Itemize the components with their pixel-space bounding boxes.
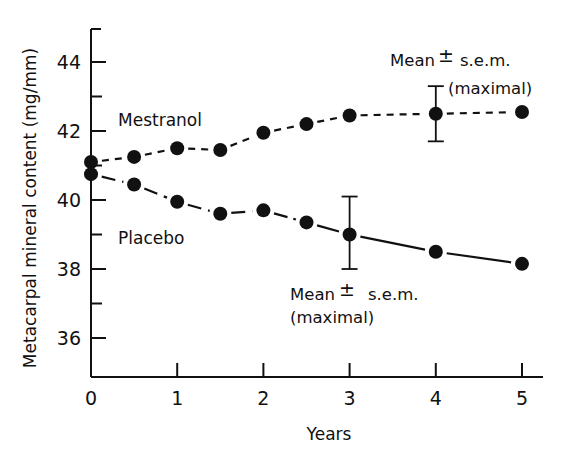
series-line-segment xyxy=(231,211,252,213)
y-tick-label: 42 xyxy=(57,120,81,142)
y-tick-label: 44 xyxy=(57,51,81,73)
series-line-segment xyxy=(317,225,339,231)
data-point-marker xyxy=(84,155,98,169)
data-point-marker xyxy=(84,167,98,181)
line-chart: 3638404244012345 Metacarpal mineral cont… xyxy=(0,0,564,461)
x-tick-label: 5 xyxy=(516,387,528,409)
series-line-segment xyxy=(102,158,123,161)
annotation-mean: Mean xyxy=(290,285,335,304)
series-line-segment xyxy=(188,149,209,150)
x-axis-title: Years xyxy=(306,424,352,444)
data-point-marker xyxy=(429,245,443,259)
x-tick-label: 1 xyxy=(171,387,183,409)
data-point-marker xyxy=(515,105,529,119)
series-line-segment xyxy=(231,137,254,146)
annotation-sem-placebo: Mean ± s.e.m. (maximal) xyxy=(290,278,419,327)
series-line-segment xyxy=(274,213,296,219)
annotation-sem: s.e.m. xyxy=(368,285,419,304)
series-line-segment xyxy=(102,177,124,182)
annotation-maximal: (maximal) xyxy=(290,308,374,327)
series-line-segment xyxy=(361,114,425,115)
annotation-sem-mestranol: Mean ± s.e.m. (maximal) xyxy=(390,44,532,98)
data-point-marker xyxy=(170,141,184,155)
series-line-segment xyxy=(188,205,210,211)
series-line-segment xyxy=(274,126,296,130)
series-line-segment xyxy=(145,150,167,154)
data-point-marker xyxy=(300,117,314,131)
series-label-mestranol: Mestranol xyxy=(118,110,202,130)
data-point-marker xyxy=(343,108,357,122)
data-point-marker xyxy=(213,207,227,221)
data-point-marker xyxy=(213,143,227,157)
annotation-plus-minus: ± xyxy=(438,44,454,66)
series-line-segment xyxy=(447,253,511,262)
y-axis-title: Metacarpal mineral content (mg/mm) xyxy=(20,48,40,368)
annotation-maximal: (maximal) xyxy=(448,79,532,98)
data-point-marker xyxy=(300,215,314,229)
y-tick-label: 40 xyxy=(57,189,81,211)
y-tick-label: 36 xyxy=(57,327,81,349)
data-point-marker xyxy=(515,257,529,271)
annotation-mean: Mean xyxy=(390,51,435,70)
data-point-marker xyxy=(127,177,141,191)
series-line-segment xyxy=(360,237,425,250)
annotation-sem: s.e.m. xyxy=(460,51,511,70)
annotation-plus-minus: ± xyxy=(339,278,355,300)
series-label-placebo: Placebo xyxy=(118,228,184,248)
data-point-marker xyxy=(343,228,357,242)
series-line-segment xyxy=(317,118,339,122)
x-tick-label: 2 xyxy=(257,387,269,409)
data-point-marker xyxy=(256,203,270,217)
y-tick-label: 38 xyxy=(57,258,81,280)
data-point-marker xyxy=(170,195,184,209)
series-line-segment xyxy=(447,112,511,113)
series-placebo xyxy=(84,167,529,271)
x-tick-label: 0 xyxy=(85,387,97,409)
x-tick-label: 4 xyxy=(430,387,442,409)
x-tick-label: 3 xyxy=(344,387,356,409)
data-point-marker xyxy=(429,107,443,121)
data-point-marker xyxy=(256,126,270,140)
series-line-segment xyxy=(144,189,167,198)
data-point-marker xyxy=(127,150,141,164)
